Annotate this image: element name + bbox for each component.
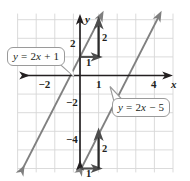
run-label-lower: 1 [86, 169, 91, 180]
graph-canvas [0, 0, 190, 181]
callout-1-operator: = 2 [18, 50, 36, 62]
x-axis-label: x [171, 79, 177, 90]
line-y-equals-2x-plus-1 [22, 16, 101, 170]
callout-2-operator: = 2 [123, 101, 141, 113]
x-tick-label-1: 1 [96, 79, 102, 90]
y-tick-label-neg4: −4 [66, 134, 78, 145]
rise-label-lower: 2 [102, 144, 107, 155]
equation-callout-line-1: y = 2x + 1 [7, 47, 65, 66]
callout-2-constant: − 5 [146, 101, 164, 113]
equation-callout-line-2: y = 2x − 5 [112, 98, 170, 117]
callout-1-constant: + 1 [41, 50, 59, 62]
run-label-upper: 1 [86, 58, 91, 69]
grid-lines [18, 14, 173, 173]
x-tick-label-4: 4 [151, 79, 157, 90]
y-axis-label: y [85, 14, 90, 25]
y-tick-label-2: 2 [70, 38, 76, 49]
y-tick-label-neg2: −2 [66, 97, 78, 108]
rise-label-upper: 2 [102, 33, 107, 44]
line-y-equals-2x-minus-5 [81, 16, 160, 170]
coordinate-plane-figure: −2 1 4 2 −2 −4 x y 2 1 2 1 y = 2x + 1 y … [0, 0, 190, 181]
x-tick-label-neg2: −2 [39, 79, 51, 90]
